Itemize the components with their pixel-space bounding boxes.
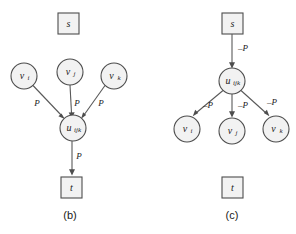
- panel-c-edge-label-v-k: –P: [266, 97, 278, 107]
- panel-b-v-j-subscript: j: [73, 70, 76, 78]
- node-shape-circle: [101, 63, 127, 89]
- panel-c-u-subscript: ijk: [233, 79, 241, 87]
- panel-b-v-i-subscript: i: [28, 74, 30, 82]
- panel-c-edge-label-v-i: –P: [202, 100, 214, 110]
- node-shape-circle: [263, 116, 289, 142]
- panel-c-edge-u-to-v-j: –P: [229, 94, 249, 118]
- panel-b-sink-label: t: [70, 182, 73, 193]
- panel-b-node-v-k: v k: [101, 63, 127, 89]
- panel-c-node-v-k: v k: [263, 116, 289, 142]
- panel-b-edge-label-v-j: P: [73, 98, 80, 108]
- panel-c-source-label: s: [231, 18, 235, 29]
- panel-b-v-i-label: v: [20, 70, 25, 81]
- panel-b: s v i v j v k: [11, 13, 127, 221]
- panel-c-v-k-label: v: [271, 123, 276, 134]
- panel-c-node-v-j: v j: [219, 118, 245, 144]
- panel-b-node-u: u ijk: [60, 115, 86, 141]
- panel-c-v-i-subscript: i: [191, 127, 193, 135]
- panel-c-edge-u-to-v-i: –P: [193, 91, 223, 117]
- graph-canvas: s v i v j v k: [0, 0, 296, 234]
- panel-b-edge-label-u-sink: P: [75, 151, 82, 161]
- panel-b-edge-label-v-i: P: [33, 98, 40, 108]
- panel-c-node-v-i: v i: [174, 116, 200, 142]
- figure-container: s v i v j v k: [0, 0, 296, 234]
- panel-b-edge-label-v-k: P: [97, 98, 104, 108]
- panel-c-u-label: u: [226, 75, 231, 86]
- panel-b-caption: (b): [63, 209, 76, 221]
- panel-c: s –P u ijk –P: [174, 13, 289, 221]
- panel-c-v-i-label: v: [183, 123, 188, 134]
- panel-b-edge-v-k-to-u: P: [81, 86, 105, 119]
- panel-c-node-u: u ijk: [219, 68, 245, 94]
- panel-b-edge-v-i-to-u: P: [33, 86, 65, 119]
- panel-b-edge-u-to-sink: P: [69, 141, 82, 176]
- panel-c-caption: (c): [226, 209, 239, 221]
- panel-b-node-source: s: [58, 13, 79, 34]
- arrow-head-icon: [264, 110, 270, 116]
- node-shape-circle: [60, 115, 86, 141]
- panel-b-edge-v-j-to-u: P: [69, 85, 81, 119]
- panel-b-v-j-label: v: [66, 66, 71, 77]
- panel-b-source-label: s: [67, 18, 71, 29]
- edge-path: [70, 85, 72, 113]
- panel-c-edge-label-source-u: –P: [237, 43, 249, 53]
- panel-b-node-v-j: v j: [57, 59, 83, 85]
- panel-c-v-j-label: v: [228, 125, 233, 136]
- arrow-head-icon: [229, 111, 235, 117]
- panel-c-edge-source-to-u: –P: [229, 34, 249, 69]
- arrow-head-icon: [193, 110, 199, 116]
- arrow-head-icon: [69, 169, 75, 175]
- panel-b-u-subscript: ijk: [74, 126, 82, 134]
- panel-b-u-label: u: [67, 122, 72, 133]
- panel-c-sink-label: t: [231, 182, 234, 193]
- panel-c-edge-label-v-j: –P: [237, 100, 249, 110]
- panel-b-v-k-label: v: [109, 70, 114, 81]
- panel-c-node-source: s: [222, 13, 243, 34]
- panel-b-node-sink: t: [61, 177, 82, 198]
- node-shape-circle: [219, 68, 245, 94]
- panel-c-node-sink: t: [222, 177, 243, 198]
- panel-b-node-v-i: v i: [11, 63, 37, 89]
- panel-c-v-j-subscript: j: [235, 129, 238, 137]
